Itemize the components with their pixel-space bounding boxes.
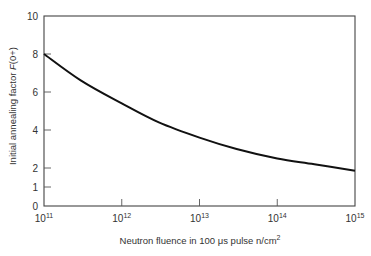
x-tick-label: 1014: [268, 212, 287, 224]
y-tick-label: 0: [32, 201, 38, 212]
x-tick-label: 1012: [112, 212, 131, 224]
x-tick-label: 1011: [35, 212, 53, 224]
data-series-line: [44, 54, 355, 171]
y-tick-label: 8: [32, 49, 38, 60]
chart: 01246810 10111012101310141015 Initial an…: [0, 0, 371, 256]
y-tick-label: 2: [32, 163, 38, 174]
x-tick-label: 1015: [346, 212, 365, 224]
y-tick-label: 1: [32, 182, 38, 193]
x-axis-label: Neutron fluence in 100 μs pulse n/cm2: [120, 234, 281, 246]
y-tick-label: 6: [32, 87, 38, 98]
x-axis: 10111012101310141015: [35, 199, 365, 224]
y-axis-label: Initial annealing factor F(0+): [7, 47, 18, 165]
y-tick-label: 4: [32, 125, 38, 136]
x-tick-label: 1013: [190, 212, 209, 224]
y-axis: 01246810: [27, 11, 51, 212]
plot-frame: [44, 16, 355, 206]
y-tick-label: 10: [27, 11, 39, 22]
